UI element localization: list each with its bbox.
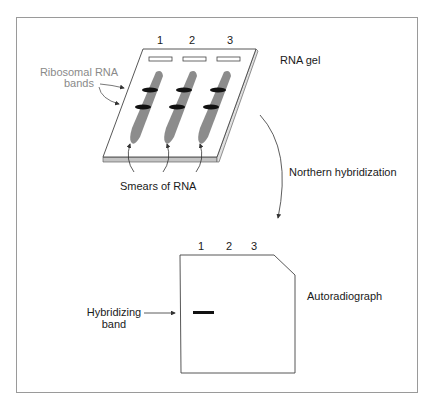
rna-gel (103, 49, 258, 162)
diagram-canvas (0, 0, 433, 413)
rrna-band-lane2-upper (176, 87, 192, 92)
ribosomal-arrow-lower (99, 87, 119, 104)
gel-front-edge (103, 157, 217, 162)
gel-lane-label-1: 1 (157, 34, 163, 46)
northern-hybridization-label: Northern hybridization (289, 166, 397, 178)
rrna-band-lane1-upper (142, 87, 158, 92)
rrna-band-lane2-lower (169, 104, 185, 109)
hybridizing-label-line1: Hybridizing (82, 306, 146, 318)
autorad-lane-label-1: 1 (198, 240, 204, 252)
well-2 (183, 57, 206, 61)
ribosomal-label-line2: bands (38, 77, 120, 89)
rrna-band-lane1-lower (135, 104, 151, 109)
rrna-band-lane3-lower (203, 104, 219, 109)
gel-lane-label-2: 2 (189, 34, 195, 46)
hybridizing-band (193, 311, 214, 314)
hybridizing-label-line2: band (82, 318, 146, 330)
autorad-lane-label-3: 3 (251, 240, 257, 252)
well-3 (217, 57, 240, 61)
autoradiograph-title: Autoradiograph (307, 290, 382, 302)
autorad-lane-label-2: 2 (226, 240, 232, 252)
northern-arrow (260, 115, 282, 218)
gel-lane-label-3: 3 (227, 34, 233, 46)
well-1 (149, 57, 172, 61)
rrna-band-lane3-upper (210, 87, 226, 92)
gel-title: RNA gel (280, 54, 320, 66)
smears-label: Smears of RNA (120, 180, 196, 192)
